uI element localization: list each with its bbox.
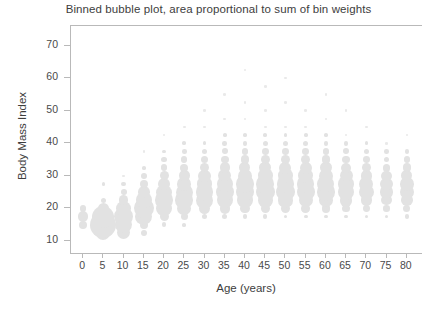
bubble-marker [179, 170, 190, 181]
bubble-marker [221, 156, 229, 164]
chart-title: Binned bubble plot, area proportional to… [0, 3, 437, 15]
bubble-marker [243, 141, 248, 146]
bubble-marker [203, 141, 207, 145]
bubble-marker [160, 171, 169, 180]
bubble-marker [284, 215, 288, 219]
bubble-marker [404, 156, 410, 162]
x-tick [143, 253, 144, 258]
bubble-marker [202, 214, 208, 220]
bubble-marker [381, 171, 391, 181]
bubble-marker [243, 133, 247, 137]
bubble-marker [283, 141, 288, 146]
bubble-marker [304, 133, 308, 137]
bubble-marker [183, 126, 186, 129]
bubble-marker [143, 150, 146, 153]
x-tick [224, 253, 225, 258]
bubble-marker [241, 155, 250, 164]
bubble-marker [385, 142, 388, 145]
bubble-marker [324, 215, 328, 219]
bubble-marker [182, 223, 186, 227]
bubble-marker [203, 126, 206, 129]
bubble-marker [405, 214, 410, 219]
y-tick [64, 207, 70, 208]
x-tick [365, 253, 366, 258]
x-tick [305, 253, 306, 258]
x-tick [406, 253, 407, 258]
bubble-marker [264, 85, 267, 88]
y-tick-label: 10 [18, 233, 58, 245]
bubble-marker [345, 134, 348, 137]
bubble-marker [121, 189, 127, 195]
bubble-marker [263, 133, 267, 137]
x-tick [183, 253, 184, 258]
x-axis-title: Age (years) [70, 282, 422, 294]
bubble-marker [323, 148, 329, 154]
bubble-marker [284, 101, 287, 104]
bubble-marker [304, 126, 307, 129]
bubble-chart-figure: Binned bubble plot, area proportional to… [0, 0, 437, 310]
bubble-marker [303, 141, 308, 146]
bubble-marker [162, 222, 167, 227]
bubble-marker [244, 118, 247, 121]
x-tick [102, 253, 103, 258]
bubble-marker [284, 126, 287, 129]
bubble-marker [365, 126, 368, 129]
bubble-marker [101, 198, 106, 203]
bubble-marker [222, 148, 228, 154]
bubble-marker [223, 118, 226, 121]
x-tick-label: 80 [391, 259, 421, 271]
x-tick [325, 253, 326, 258]
bubble-marker [262, 148, 269, 155]
bubble-marker [79, 221, 87, 229]
x-tick [284, 253, 285, 258]
bubble-series-layer [71, 26, 423, 254]
bubble-marker [244, 101, 247, 104]
bubble-marker [222, 214, 227, 219]
bubble-marker [182, 141, 186, 145]
bubble-marker [304, 109, 307, 112]
bubble-marker [324, 141, 329, 146]
y-tick [64, 142, 70, 143]
bubble-marker [163, 134, 166, 137]
bubble-marker [242, 148, 248, 154]
bubble-marker [182, 149, 187, 154]
x-tick [163, 253, 164, 258]
bubble-marker [220, 162, 230, 172]
bubble-marker [121, 182, 126, 187]
bubble-marker [364, 149, 369, 154]
y-axis-title: Body Mass Index [16, 56, 28, 216]
bubble-marker [243, 214, 248, 219]
x-tick [82, 253, 83, 258]
bubble-marker [138, 186, 150, 198]
bubble-marker [80, 205, 86, 211]
bubble-marker [284, 133, 288, 137]
bubble-marker [282, 148, 289, 155]
bubble-marker [365, 215, 369, 219]
bubble-marker [304, 215, 308, 219]
bubble-marker [203, 109, 206, 112]
bubble-marker [102, 182, 106, 186]
y-tick-label: 70 [18, 38, 58, 50]
bubble-marker [302, 148, 309, 155]
x-tick [264, 253, 265, 258]
bubble-marker [341, 163, 351, 173]
y-tick [64, 45, 70, 46]
bubble-marker [405, 149, 410, 154]
x-tick [123, 253, 124, 258]
bubble-marker [161, 164, 168, 171]
bubble-marker [263, 141, 268, 146]
bubble-marker [122, 175, 125, 178]
bubble-marker [181, 156, 187, 162]
bubble-marker [142, 166, 146, 170]
bubble-marker [383, 164, 391, 172]
bubble-marker [284, 77, 287, 80]
bubble-marker [201, 156, 208, 163]
bubble-marker [141, 173, 147, 179]
bubble-marker [264, 109, 267, 112]
bubble-marker [365, 141, 369, 145]
bubble-marker [322, 155, 331, 164]
bubble-marker [264, 126, 267, 129]
bubble-marker [403, 163, 412, 172]
bubble-marker [244, 69, 247, 72]
bubble-marker [384, 149, 389, 154]
